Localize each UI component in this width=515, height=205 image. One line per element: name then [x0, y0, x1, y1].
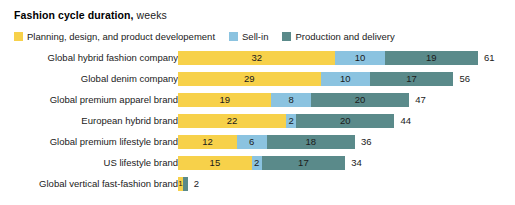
category-label: Global premium lifestyle brand	[50, 135, 178, 149]
bar-total-value: 47	[415, 93, 426, 107]
bar-segment-production[interactable]: 19	[385, 51, 478, 65]
bar-segment-planning[interactable]: 19	[178, 93, 271, 107]
bar-segment-production[interactable]: 20	[311, 93, 409, 107]
chart-title: Fashion cycle duration, weeks	[14, 9, 515, 22]
chart-row: Global denim company29101756	[14, 72, 515, 86]
bar-total-value: 44	[400, 114, 411, 128]
bar-segment-sell-in[interactable]: 6	[237, 135, 267, 149]
bar-segment-value: 22	[227, 114, 238, 128]
bar-segment-planning[interactable]: 15	[178, 156, 252, 170]
legend-swatch-production	[282, 32, 291, 41]
bar-segment-value: 12	[202, 135, 213, 149]
bar-segment-value: 18	[305, 135, 316, 149]
bar-segment-value: 8	[288, 93, 293, 107]
chart-row: US lifestyle brand1521734	[14, 156, 515, 170]
stacked-bar[interactable]: 291017	[178, 72, 453, 86]
legend-swatch-planning	[14, 32, 23, 41]
stacked-bar[interactable]: 1	[178, 177, 188, 191]
stacked-bar[interactable]: 321019	[178, 51, 478, 65]
stacked-bar[interactable]: 12618	[178, 135, 355, 149]
chart-title-main: Fashion cycle duration,	[14, 9, 134, 21]
category-label: Global denim company	[81, 72, 178, 86]
bar-segment-sell-in[interactable]: 10	[321, 72, 370, 86]
bar-segment-value: 6	[249, 135, 254, 149]
bar-segment-value: 19	[219, 93, 230, 107]
bar-segment-value: 19	[426, 51, 437, 65]
chart-row: Global premium lifestyle brand1261836	[14, 135, 515, 149]
bar-segment-value: 17	[298, 156, 309, 170]
bar-segment-planning[interactable]: 22	[178, 114, 286, 128]
bar-segment-value: 32	[251, 51, 262, 65]
bar-segment-sell-in[interactable]: 10	[335, 51, 384, 65]
bar-segment-value: 2	[288, 114, 293, 128]
chart-row: Global hybrid fashion company32101961	[14, 51, 515, 65]
bar-segment-production[interactable]	[183, 177, 188, 191]
bar-segment-sell-in[interactable]: 8	[271, 93, 310, 107]
stacked-bar[interactable]: 19820	[178, 93, 409, 107]
bar-segment-planning[interactable]: 29	[178, 72, 321, 86]
bar-segment-value: 2	[254, 156, 259, 170]
fashion-cycle-duration-chart: Fashion cycle duration, weeks Planning, …	[0, 0, 515, 205]
bar-segment-value: 10	[355, 51, 366, 65]
bar-total-value: 2	[194, 177, 199, 191]
bar-segment-value: 17	[406, 72, 417, 86]
legend-item-production[interactable]: Production and delivery	[282, 31, 394, 42]
legend-label-sell-in: Sell-in	[242, 31, 268, 42]
bar-segment-value: 20	[340, 114, 351, 128]
bar-segment-planning[interactable]: 32	[178, 51, 335, 65]
bar-total-value: 56	[459, 72, 470, 86]
legend-label-production: Production and delivery	[295, 31, 394, 42]
bar-segment-production[interactable]: 18	[267, 135, 356, 149]
bar-segment-value: 15	[210, 156, 221, 170]
chart-plot-area: Global hybrid fashion company32101961Glo…	[14, 50, 515, 200]
chart-row: European hybrid brand2222044	[14, 114, 515, 128]
stacked-bar[interactable]: 22220	[178, 114, 394, 128]
legend-item-sell-in[interactable]: Sell-in	[229, 31, 268, 42]
bar-total-value: 61	[484, 51, 495, 65]
bar-total-value: 34	[351, 156, 362, 170]
bar-segment-sell-in[interactable]: 2	[286, 114, 296, 128]
bar-segment-value: 20	[355, 93, 366, 107]
bar-segment-production[interactable]: 17	[370, 72, 454, 86]
bar-total-value: 36	[361, 135, 372, 149]
bar-segment-sell-in[interactable]: 2	[252, 156, 262, 170]
legend-item-planning[interactable]: Planning, design, and product developeme…	[14, 31, 215, 42]
legend-label-planning: Planning, design, and product developeme…	[27, 31, 215, 42]
chart-row: Global premium apparel brand1982047	[14, 93, 515, 107]
bar-segment-value: 10	[340, 72, 351, 86]
bar-segment-planning[interactable]: 12	[178, 135, 237, 149]
bar-segment-production[interactable]: 20	[296, 114, 394, 128]
chart-legend: Planning, design, and product developeme…	[14, 31, 515, 42]
category-label: Global vertical fast-fashion brand	[39, 177, 178, 191]
stacked-bar[interactable]: 15217	[178, 156, 345, 170]
bar-segment-production[interactable]: 17	[262, 156, 346, 170]
chart-row: Global vertical fast-fashion brand12	[14, 177, 515, 191]
legend-swatch-sell-in	[229, 32, 238, 41]
bar-segment-value: 29	[244, 72, 255, 86]
category-label: European hybrid brand	[81, 114, 178, 128]
category-label: US lifestyle brand	[104, 156, 178, 170]
category-label: Global premium apparel brand	[50, 93, 178, 107]
category-label: Global hybrid fashion company	[48, 51, 178, 65]
chart-title-unit: weeks	[134, 9, 167, 21]
